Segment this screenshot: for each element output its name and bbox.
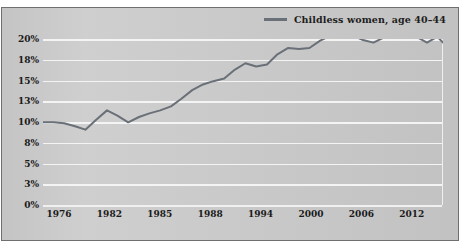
y-axis-tick-label: 5% [2,159,39,169]
y-axis-tick-label: 13% [2,96,39,106]
legend-label: Childless women, age 40–44 [294,14,446,25]
y-axis-ticks: 20%18%15%13%10%8%5%3%0% [2,39,462,205]
x-axis-tick-label: 2012 [399,209,424,219]
y-axis-tick-label: 3% [2,179,39,189]
x-axis-tick-label: 2006 [349,209,374,219]
gridline [43,205,442,207]
x-axis-tick-label: 1985 [147,209,172,219]
chart-figure: Childless women, age 40–44 20%18%15%13%1… [1,7,459,241]
x-axis-tick-label: 1988 [198,209,223,219]
cutoff-caption-strip [0,0,462,6]
y-axis-tick-label: 18% [2,55,39,65]
x-axis-tick-label: 1994 [248,209,273,219]
x-axis-tick-label: 1982 [97,209,122,219]
x-axis-tick-label: 1976 [46,209,71,219]
y-axis-tick-label: 0% [2,200,39,210]
legend-line-swatch [264,18,287,21]
y-axis-tick-label: 10% [2,117,39,127]
chart-legend: Childless women, age 40–44 [264,14,446,25]
y-axis-tick-label: 15% [2,76,39,86]
y-axis-tick-label: 20% [2,34,39,44]
y-axis-tick-label: 8% [2,138,39,148]
x-axis-tick-label: 2000 [298,209,323,219]
x-axis-ticks: 19761982198519881994200020062012 [43,209,443,225]
